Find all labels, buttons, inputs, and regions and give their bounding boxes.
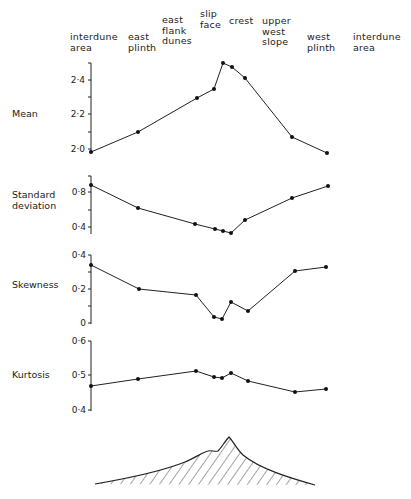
kurt-line bbox=[91, 371, 326, 392]
skew-tick-0-2: 0·2 bbox=[72, 284, 86, 294]
skew-tick-0: 0 bbox=[80, 318, 86, 328]
sd-tick-0-4: 0·4 bbox=[72, 222, 87, 232]
mean-tick-2-2: 2·2 bbox=[71, 109, 85, 119]
figure-canvas: 2·4 2·2 2·0 0·8 0·4 bbox=[0, 0, 411, 499]
dune-profile bbox=[95, 437, 315, 485]
mean-line bbox=[91, 63, 327, 153]
skew-line bbox=[91, 265, 326, 319]
mean-tick-2-4: 2·4 bbox=[71, 75, 86, 85]
sd-tick-0-8: 0·8 bbox=[72, 187, 87, 197]
kurt-points bbox=[89, 369, 328, 394]
skew-points bbox=[89, 263, 328, 321]
standard-deviation-chart: 0·8 0·4 bbox=[72, 176, 330, 235]
sd-line bbox=[91, 185, 328, 233]
kurt-tick-0-4: 0·4 bbox=[72, 405, 87, 415]
mean-points bbox=[89, 61, 329, 155]
skewness-chart: 0·4 0·2 0 bbox=[72, 250, 328, 328]
skew-tick-0-4: 0·4 bbox=[72, 250, 87, 260]
mean-chart: 2·4 2·2 2·0 bbox=[71, 61, 329, 155]
kurt-tick-0-5: 0·5 bbox=[72, 370, 86, 380]
kurtosis-chart: 0·6 0·5 0·4 bbox=[72, 336, 328, 415]
mean-tick-2-0: 2·0 bbox=[71, 144, 86, 154]
kurt-tick-0-6: 0·6 bbox=[72, 336, 87, 346]
